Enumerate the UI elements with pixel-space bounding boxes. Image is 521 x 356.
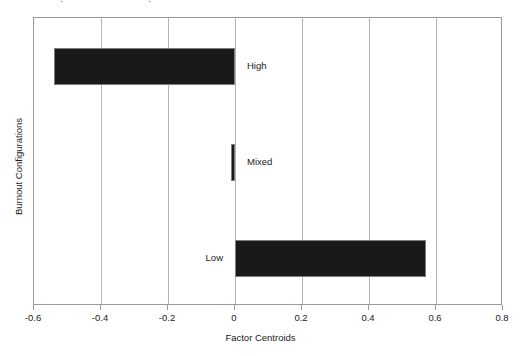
header-remnant-left: · bbox=[60, 0, 63, 6]
bar-mixed bbox=[231, 144, 235, 181]
cropped-header-remnants: · · bbox=[0, 0, 521, 10]
x-axis-title: Factor Centroids bbox=[0, 332, 521, 343]
x-tick-3 bbox=[234, 305, 235, 310]
x-tick-2 bbox=[167, 305, 168, 310]
x-tick-label-7: 0.8 bbox=[495, 312, 508, 323]
bar-label-high: High bbox=[247, 61, 267, 71]
x-tick-5 bbox=[368, 305, 369, 310]
bar-low bbox=[235, 240, 426, 277]
x-tick-label-6: 0.6 bbox=[428, 312, 441, 323]
x-tick-label-2: -0.2 bbox=[159, 312, 175, 323]
x-tick-1 bbox=[100, 305, 101, 310]
x-tick-label-4: 0.2 bbox=[294, 312, 307, 323]
x-tick-label-5: 0.4 bbox=[361, 312, 374, 323]
y-axis-title: Burnout Configurations bbox=[13, 87, 24, 247]
plot-area: HighMixedLow bbox=[33, 17, 502, 305]
x-tick-6 bbox=[435, 305, 436, 310]
bar-label-low: Low bbox=[34, 253, 223, 263]
bar-label-mixed: Mixed bbox=[247, 157, 272, 167]
gridline-x-6 bbox=[436, 18, 437, 304]
x-tick-label-3: 0 bbox=[231, 312, 236, 323]
x-tick-7 bbox=[502, 305, 503, 310]
bar-high bbox=[54, 48, 235, 85]
x-tick-4 bbox=[301, 305, 302, 310]
x-tick-label-0: -0.6 bbox=[25, 312, 41, 323]
x-tick-0 bbox=[33, 305, 34, 310]
header-remnant-right: · bbox=[148, 0, 151, 6]
x-tick-label-1: -0.4 bbox=[92, 312, 108, 323]
